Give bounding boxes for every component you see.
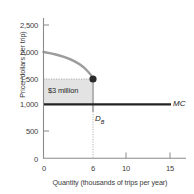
y-tick-label-500: 500: [4, 127, 38, 136]
y-tick-label-2000: 2,000: [4, 48, 38, 57]
y-tick-label-0: 0: [4, 155, 38, 164]
demand-curve: [44, 52, 94, 79]
y-tick-label-1000: 1,000: [4, 100, 38, 109]
x-tick-label-0: 0: [36, 164, 52, 173]
x-axis-title: Quantity (thousands of trips per year): [26, 178, 194, 187]
demand-curve-label-subscript: B: [101, 119, 105, 125]
producer-surplus-label: $3 million: [48, 86, 78, 95]
x-tick-label-6: 6: [85, 164, 101, 173]
x-tick-label-10: 10: [118, 164, 134, 173]
demand-curve-label: DB: [95, 114, 104, 125]
chart-figure: Price (dollars per trip) Quantity (thous…: [0, 0, 194, 194]
equilibrium-point-marker: [89, 75, 96, 82]
x-tick-label-15: 15: [162, 164, 178, 173]
y-tick-label-1500: 1,500: [4, 75, 38, 84]
y-tick-label-2500: 2,500: [4, 21, 38, 30]
marginal-cost-label: MC: [173, 99, 185, 108]
